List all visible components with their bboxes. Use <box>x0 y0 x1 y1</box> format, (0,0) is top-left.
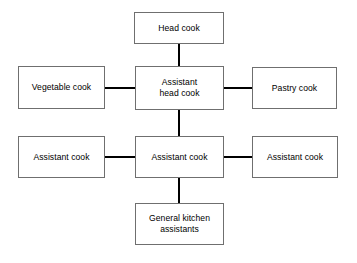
connector-assistant-head-cook-to-assistant-cook <box>178 109 180 137</box>
node-vegetable-cook[interactable]: Vegetable cook <box>18 66 105 109</box>
node-assistant-cook-right[interactable]: Assistant cook <box>252 136 338 178</box>
connector-vegetable-cook-to-assistant-head-cook <box>104 87 136 89</box>
node-assistant-cook-center[interactable]: Assistant cook <box>135 136 224 178</box>
org-chart-diagram: Head cook Vegetable cook Assistant head … <box>0 0 357 263</box>
connector-assistant-cook-left-to-center <box>104 156 136 158</box>
connector-assistant-head-cook-to-pastry-cook <box>223 87 253 89</box>
node-general-kitchen-assistants-label: General kitchen assistants <box>146 213 213 234</box>
node-assistant-cook-right-label: Assistant cook <box>264 152 326 163</box>
node-vegetable-cook-label: Vegetable cook <box>29 82 94 93</box>
node-head-cook[interactable]: Head cook <box>134 12 224 44</box>
connector-assistant-cook-center-to-right <box>223 156 253 158</box>
node-assistant-cook-left[interactable]: Assistant cook <box>18 136 105 178</box>
node-assistant-head-cook-label: Assistant head cook <box>156 77 202 98</box>
node-general-kitchen-assistants[interactable]: General kitchen assistants <box>135 203 224 245</box>
node-assistant-head-cook[interactable]: Assistant head cook <box>135 66 224 110</box>
connector-head-cook-to-assistant-head-cook <box>178 43 180 67</box>
node-assistant-cook-left-label: Assistant cook <box>30 152 92 163</box>
connector-assistant-cook-to-general-kitchen-assistants <box>178 177 180 204</box>
node-pastry-cook-label: Pastry cook <box>269 83 320 94</box>
node-assistant-cook-center-label: Assistant cook <box>148 152 210 163</box>
node-pastry-cook[interactable]: Pastry cook <box>252 67 337 109</box>
node-head-cook-label: Head cook <box>155 23 203 34</box>
